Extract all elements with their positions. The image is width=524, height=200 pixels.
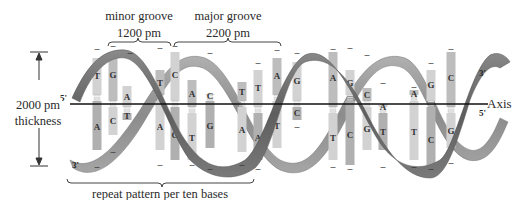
base-letter-top: C — [172, 70, 179, 80]
base-letter-top: G — [109, 70, 116, 80]
svg-text:–: – — [448, 158, 453, 168]
svg-text:–: – — [157, 160, 162, 170]
base-letter-top: A — [380, 102, 387, 112]
hydrogen-bond — [448, 109, 454, 110]
base-letter-bottom: G — [363, 124, 370, 134]
base-letter-top: A — [330, 73, 337, 83]
hydrogen-bond — [411, 99, 417, 100]
hydrogen-bond — [428, 105, 434, 106]
svg-text:–: – — [448, 44, 453, 54]
thickness-title: thickness — [13, 115, 64, 128]
svg-text:–: – — [380, 162, 385, 172]
base-letter-bottom: C — [428, 135, 435, 145]
base-letter-bottom: T — [124, 111, 130, 121]
hydrogen-bond — [189, 107, 195, 108]
svg-text:–: – — [207, 164, 212, 174]
svg-text:–: – — [274, 45, 279, 55]
base-letter-bottom: A — [157, 122, 164, 132]
helix-graphic: TAGCATTACGATCGTATAATGCATGCCGATATGCCG –– … — [0, 0, 524, 200]
svg-text:–: – — [294, 122, 299, 132]
base-letter-bottom: A — [94, 122, 101, 132]
svg-text:–: – — [255, 164, 260, 174]
base-letter-bottom: C — [294, 108, 301, 118]
svg-text:–: – — [239, 160, 244, 170]
svg-text:–: – — [157, 43, 162, 53]
base-letter-top: A — [189, 89, 196, 99]
dna-double-helix-diagram: TAGCATTACGATCGTATAATGCATGCCGATATGCCG –– … — [0, 0, 524, 200]
hydrogen-bond — [255, 109, 261, 110]
minor-groove-value: 1200 pm — [117, 27, 161, 40]
major-groove-value: 2200 pm — [206, 27, 250, 40]
hydrogen-bond — [347, 99, 353, 100]
base-letter-top: T — [239, 87, 245, 97]
three-prime-right-label: 3' — [479, 68, 486, 78]
svg-text:–: – — [110, 147, 115, 157]
hydrogen-bond — [110, 105, 116, 106]
base-letter-top: G — [293, 76, 300, 86]
svg-text:–: – — [364, 50, 369, 60]
svg-text:–: – — [172, 41, 177, 51]
svg-text:–: – — [294, 48, 299, 58]
base-letter-top: G — [427, 80, 434, 90]
hydrogen-bond — [94, 99, 100, 100]
minor-groove-title: minor groove — [105, 10, 173, 23]
hydrogen-bond — [110, 101, 116, 102]
hydrogen-bond — [448, 111, 454, 112]
hydrogen-bond — [189, 111, 195, 112]
hydrogen-bond — [330, 111, 336, 112]
repeat-pattern-label: repeat pattern per ten bases — [92, 188, 228, 200]
base-letter-bottom: A — [239, 125, 246, 135]
svg-text:–: – — [330, 44, 335, 54]
base-letter-bottom: T — [330, 133, 336, 143]
svg-text:–: – — [428, 164, 433, 174]
axis-label: Axis — [487, 97, 512, 110]
svg-text:–: – — [428, 58, 433, 68]
base-letter-top: T — [157, 78, 163, 88]
five-prime-right-label: 5' — [479, 108, 486, 118]
svg-text:–: – — [94, 162, 99, 172]
svg-text:–: – — [347, 43, 352, 53]
svg-text:–: – — [94, 44, 99, 54]
base-letter-bottom: T — [189, 133, 195, 143]
hydrogen-bond — [347, 97, 353, 98]
hydrogen-bond — [239, 105, 245, 106]
base-letter-bottom: G — [447, 126, 454, 136]
hydrogen-bond — [364, 101, 370, 102]
base-letter-bottom: G — [206, 121, 213, 131]
base-letter-top: C — [448, 73, 455, 83]
hydrogen-bond — [124, 107, 130, 108]
hydrogen-bond — [428, 101, 434, 102]
major-groove-title: major groove — [195, 10, 262, 23]
base-letter-bottom: C — [347, 130, 354, 140]
hydrogen-bond — [172, 101, 178, 102]
hydrogen-bond — [294, 101, 300, 102]
hydrogen-bond — [330, 107, 336, 108]
hydrogen-bond — [255, 111, 261, 112]
hydrogen-bond — [255, 107, 261, 108]
svg-text:–: – — [411, 162, 416, 172]
hydrogen-bond — [94, 95, 100, 96]
svg-text:–: – — [207, 48, 212, 58]
base-letter-bottom: T — [411, 127, 417, 137]
hydrogen-bond — [347, 95, 353, 96]
base-letter-bottom: C — [110, 116, 117, 126]
base-letter-top: T — [255, 83, 261, 93]
svg-text:–: – — [330, 162, 335, 172]
hydrogen-bond — [448, 107, 454, 108]
svg-text:–: – — [380, 78, 385, 88]
three-prime-left-label: 3' — [72, 160, 79, 170]
base-letter-top: C — [364, 90, 371, 100]
hydrogen-bond — [172, 105, 178, 106]
hydrogen-bond — [364, 105, 370, 106]
base-letter-top: A — [124, 92, 131, 102]
svg-text:–: – — [411, 82, 416, 92]
hydrogen-bond — [239, 101, 245, 102]
base-letter-top: C — [207, 91, 214, 101]
svg-text:–: – — [110, 41, 115, 51]
thickness-value: 2000 pm — [14, 99, 62, 112]
svg-text:–: – — [347, 164, 352, 174]
hydrogen-bond — [94, 97, 100, 98]
base-letter-top: A — [274, 71, 281, 81]
hydrogen-bond — [189, 109, 195, 110]
hydrogen-bond — [330, 109, 336, 110]
